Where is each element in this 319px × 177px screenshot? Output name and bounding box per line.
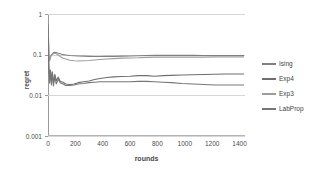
legend-line-icon: [262, 108, 276, 110]
x-tick-label: 0: [35, 140, 61, 147]
series-lines: [48, 14, 245, 136]
legend-line-icon: [262, 78, 276, 80]
y-tick-label: 0.001: [0, 133, 42, 140]
y-tick-label: 0.01: [0, 92, 42, 99]
legend-item[interactable]: Exp3: [262, 86, 319, 101]
x-tick-label: 200: [62, 140, 88, 147]
y-tick-label: 0.1: [0, 51, 42, 58]
legend-item[interactable]: LabProp: [262, 101, 319, 116]
legend-item[interactable]: Ising: [262, 56, 319, 71]
x-tick-label: 1400: [227, 140, 253, 147]
legend-label: LabProp: [279, 105, 304, 112]
y-tick-mark: [45, 55, 48, 56]
chart-legend: IsingExp4Exp3LabProp: [262, 56, 319, 116]
regret-vs-rounds-chart: regret 10.10.010.001 0200400600800100012…: [0, 0, 319, 177]
legend-label: Exp3: [279, 90, 294, 97]
y-tick-mark: [45, 136, 48, 137]
legend-label: Ising: [279, 60, 293, 67]
x-tick-label: 600: [117, 140, 143, 147]
x-axis-title: rounds: [48, 155, 245, 162]
y-tick-label: 1: [0, 11, 42, 18]
x-tick-label: 800: [144, 140, 170, 147]
x-tick-label: 1000: [172, 140, 198, 147]
x-tick-label: 1200: [199, 140, 225, 147]
legend-line-icon: [262, 63, 276, 65]
legend-item[interactable]: Exp4: [262, 71, 319, 86]
x-tick-label: 400: [90, 140, 116, 147]
gridline: [48, 136, 245, 137]
series-line: [48, 25, 243, 60]
legend-label: Exp4: [279, 75, 294, 82]
y-tick-mark: [45, 14, 48, 15]
legend-line-icon: [262, 93, 276, 95]
y-tick-mark: [45, 95, 48, 96]
plot-area: [48, 14, 245, 136]
